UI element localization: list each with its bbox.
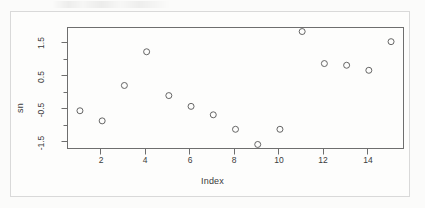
data-point (188, 103, 194, 109)
data-point (277, 126, 283, 132)
data-point (121, 82, 127, 88)
x-tick-label: 10 (267, 155, 291, 165)
y-axis (62, 28, 68, 149)
data-point (366, 67, 372, 73)
x-axis-title: Index (0, 176, 425, 186)
x-tick-label: 14 (356, 155, 380, 165)
y-tick-label: -0.5 (36, 95, 46, 125)
y-tick-label: 0.5 (36, 62, 46, 92)
data-point (344, 62, 350, 68)
screenshot-canvas: sn Index 1.5 0.5 -0.5 -1.5 2 4 6 8 10 12… (0, 0, 425, 208)
data-point (299, 29, 305, 35)
data-point (210, 112, 216, 118)
y-tick-label: 1.5 (36, 28, 46, 58)
x-tick-label: 4 (133, 155, 157, 165)
plot-box (68, 28, 404, 149)
data-point (255, 141, 261, 147)
data-point-series (77, 29, 394, 148)
data-point (388, 39, 394, 45)
y-tick-label: -1.5 (36, 128, 46, 158)
y-axis-title: sn (15, 78, 25, 138)
data-point (233, 126, 239, 132)
data-point (99, 118, 105, 124)
x-tick-label: 6 (178, 155, 202, 165)
x-axis (68, 149, 404, 155)
x-tick-label: 12 (311, 155, 335, 165)
data-point (144, 49, 150, 55)
data-point (77, 108, 83, 114)
scatter-plot: sn Index 1.5 0.5 -0.5 -1.5 2 4 6 8 10 12… (0, 0, 425, 208)
data-point (321, 61, 327, 67)
data-point (166, 93, 172, 99)
x-tick-label: 8 (222, 155, 246, 165)
x-tick-label: 2 (89, 155, 113, 165)
